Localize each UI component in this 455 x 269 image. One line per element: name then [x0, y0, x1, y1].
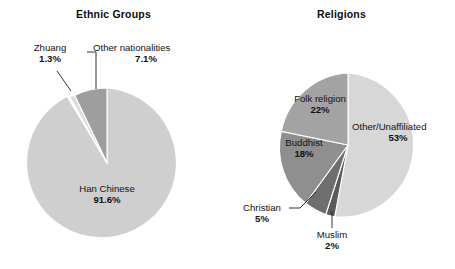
label-han-chinese-name: Han Chinese: [52, 183, 162, 194]
label-christian: Christian 5%: [234, 202, 290, 225]
label-muslim: Muslim 2%: [306, 229, 358, 252]
chart-religions: Religions Folk religion 22% Buddhist 18%: [228, 0, 455, 269]
label-other-nationalities-pct: 7.1%: [79, 53, 213, 64]
label-buddhist: Buddhist 18%: [264, 137, 344, 160]
label-christian-pct: 5%: [234, 213, 290, 224]
label-other-nationalities-name: Other nationalities: [93, 42, 213, 53]
label-muslim-name: Muslim: [306, 229, 358, 240]
label-han-chinese: Han Chinese 91.6%: [52, 183, 162, 206]
pie-ethnic-groups-svg: [0, 0, 227, 269]
leader-line-zhuang: [57, 71, 71, 91]
label-muslim-pct: 2%: [306, 240, 358, 251]
figure-canvas: Ethnic Groups Zhuang 1.3% Other national…: [0, 0, 455, 269]
label-zhuang: Zhuang 1.3%: [16, 42, 84, 65]
label-buddhist-pct: 18%: [264, 148, 344, 159]
label-other-unaffiliated-pct: 53%: [344, 132, 452, 143]
label-christian-name: Christian: [234, 202, 290, 213]
label-folk-religion-name: Folk religion: [272, 93, 368, 104]
label-buddhist-name: Buddhist: [264, 137, 344, 148]
label-other-unaffiliated-name: Other/Unaffiliated: [352, 121, 452, 132]
label-zhuang-pct: 1.3%: [16, 53, 84, 64]
chart-ethnic-groups: Ethnic Groups Zhuang 1.3% Other national…: [0, 0, 227, 269]
label-folk-religion-pct: 22%: [272, 104, 368, 115]
label-other-nationalities: Other nationalities 7.1%: [93, 42, 213, 65]
label-folk-religion: Folk religion 22%: [272, 93, 368, 116]
label-han-chinese-pct: 91.6%: [52, 194, 162, 205]
label-other-unaffiliated: Other/Unaffiliated 53%: [352, 121, 452, 144]
label-zhuang-name: Zhuang: [16, 42, 84, 53]
